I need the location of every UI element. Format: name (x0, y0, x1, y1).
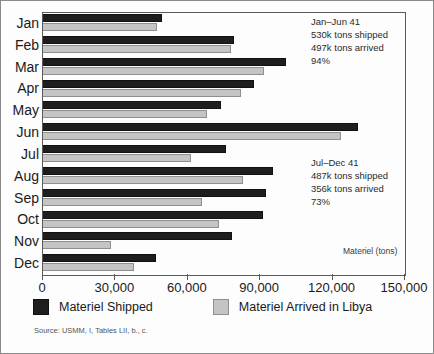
bar-arrived (42, 67, 264, 75)
legend-swatch-arrived-icon (213, 299, 229, 315)
category-label-mar: Mar (1, 60, 39, 74)
category-axis: JanFebMarAprMayJunJulAugSepOctNovDec (1, 12, 39, 274)
legend-swatch-shipped-icon (33, 299, 49, 315)
bar-group (42, 99, 404, 121)
x-axis-title: Materiel (tons) (343, 246, 397, 256)
bar-arrived (42, 23, 157, 31)
source-note: Source: USMM, I, Tables LII, b., c. (34, 326, 148, 335)
bar-arrived (42, 154, 191, 162)
bar-shipped (42, 36, 234, 44)
category-label-apr: Apr (1, 81, 39, 95)
annotation-jan-jun: Jan–Jun 41 530k tons shipped 497k tons a… (311, 15, 388, 67)
bar-arrived (42, 198, 202, 206)
category-label-dec: Dec (1, 256, 39, 270)
bar-shipped (42, 211, 263, 219)
bar-arrived (42, 89, 241, 97)
annotation-jul-dec-line-4: 73% (311, 195, 388, 208)
legend-label-shipped: Materiel Shipped (59, 300, 153, 314)
x-tick-label: 90,000 (239, 280, 279, 295)
bar-arrived (42, 263, 134, 271)
x-tick-label: 150,000 (381, 280, 428, 295)
x-tick-label: 60,000 (167, 280, 207, 295)
legend-item-arrived: Materiel Arrived in Libya (213, 299, 372, 315)
bar-shipped (42, 80, 254, 88)
bar-arrived (42, 220, 219, 228)
chart-legend: Materiel Shipped Materiel Arrived in Lib… (33, 299, 372, 315)
bar-arrived (42, 132, 341, 140)
bar-group (42, 78, 404, 100)
x-tick-label: 30,000 (95, 280, 135, 295)
bar-group (42, 209, 404, 231)
category-label-jan: Jan (1, 16, 39, 30)
annotation-jan-jun-line-4: 94% (311, 54, 388, 67)
bar-shipped (42, 167, 273, 175)
category-label-oct: Oct (1, 212, 39, 226)
x-axis-tick-labels: 030,00060,00090,000120,000150,000 (1, 280, 434, 296)
category-label-jun: Jun (1, 125, 39, 139)
bar-shipped (42, 101, 221, 109)
annotation-jul-dec: Jul–Dec 41 487k tons shipped 356k tons a… (311, 156, 388, 208)
annotation-jan-jun-line-2: 530k tons shipped (311, 28, 388, 41)
bar-shipped (42, 232, 232, 240)
bar-shipped (42, 145, 226, 153)
bar-shipped (42, 254, 156, 262)
category-label-jul: Jul (1, 147, 39, 161)
annotation-jan-jun-line-1: Jan–Jun 41 (311, 15, 388, 28)
chart-figure: JanFebMarAprMayJunJulAugSepOctNovDec 030… (0, 0, 434, 354)
legend-label-arrived: Materiel Arrived in Libya (239, 300, 372, 314)
category-label-aug: Aug (1, 169, 39, 183)
bar-arrived (42, 110, 207, 118)
bar-arrived (42, 176, 243, 184)
category-label-may: May (1, 103, 39, 117)
category-label-feb: Feb (1, 38, 39, 52)
bar-shipped (42, 58, 286, 66)
category-label-sep: Sep (1, 191, 39, 205)
bar-arrived (42, 241, 111, 249)
bar-arrived (42, 45, 231, 53)
annotation-jul-dec-line-1: Jul–Dec 41 (311, 156, 388, 169)
annotation-jul-dec-line-2: 487k tons shipped (311, 169, 388, 182)
legend-item-shipped: Materiel Shipped (33, 299, 153, 315)
annotation-jul-dec-line-3: 356k tons arrived (311, 182, 388, 195)
x-tick-label: 0 (38, 280, 45, 295)
category-label-nov: Nov (1, 234, 39, 248)
bar-shipped (42, 189, 266, 197)
bar-group (42, 121, 404, 143)
annotation-jan-jun-line-3: 497k tons arrived (311, 41, 388, 54)
bar-shipped (42, 14, 162, 22)
x-tick-label: 120,000 (308, 280, 355, 295)
bar-shipped (42, 123, 358, 131)
